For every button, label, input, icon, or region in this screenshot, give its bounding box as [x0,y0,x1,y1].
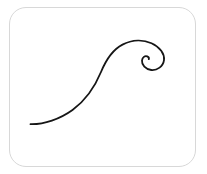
wave-flourish-path [31,41,165,125]
artwork-canvas [0,0,207,174]
screenshot-root: Wave flourish drawing [0,0,207,174]
wave-flourish-svg [0,0,207,174]
